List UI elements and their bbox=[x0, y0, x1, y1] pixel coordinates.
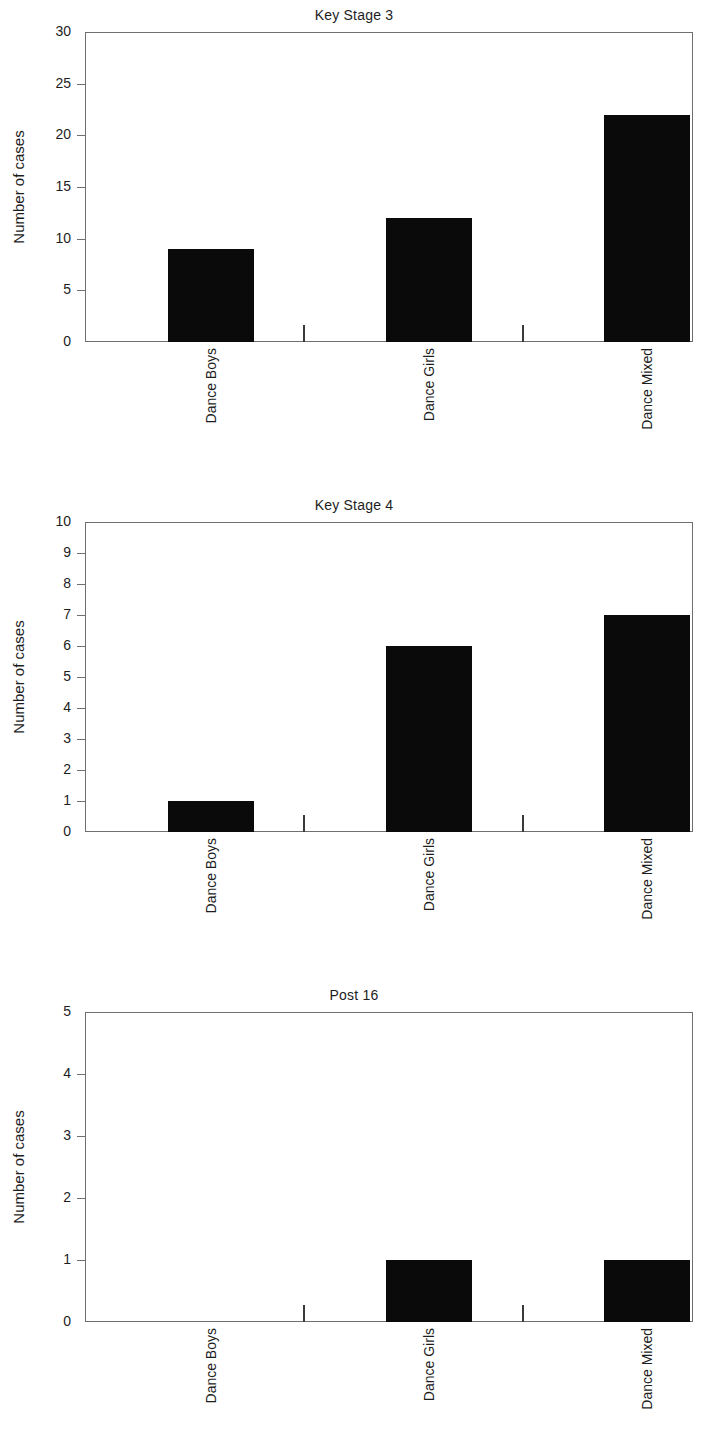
bar bbox=[604, 615, 690, 832]
y-axis-tick: 5 bbox=[0, 677, 85, 678]
y-axis-tick: 0 bbox=[0, 832, 85, 833]
bar bbox=[604, 1260, 690, 1322]
chart-title: Key Stage 4 bbox=[0, 497, 708, 513]
y-axis-tick: 1 bbox=[0, 801, 85, 802]
y-axis-tick: 0 bbox=[0, 1322, 85, 1323]
y-axis-tick-label: 8 bbox=[63, 575, 71, 592]
y-axis-tick-mark bbox=[77, 1198, 85, 1199]
y-axis-tick-label: 5 bbox=[63, 1003, 71, 1020]
y-axis-tick-label: 5 bbox=[63, 668, 71, 685]
y-axis-tick-label: 0 bbox=[63, 823, 71, 840]
y-axis-tick: 7 bbox=[0, 615, 85, 616]
x-axis-separator-tick bbox=[303, 325, 305, 342]
chart-panel: Post 16Number of cases012345Dance BoysDa… bbox=[0, 980, 708, 1451]
y-axis-tick-mark bbox=[77, 187, 85, 188]
bars-layer bbox=[85, 1012, 693, 1322]
y-axis-tick-mark bbox=[77, 584, 85, 585]
y-axis-tick-label: 4 bbox=[63, 699, 71, 716]
y-axis-tick: 2 bbox=[0, 770, 85, 771]
y-axis-tick: 9 bbox=[0, 553, 85, 554]
y-axis-tick: 8 bbox=[0, 584, 85, 585]
y-axis-tick-label: 0 bbox=[63, 1313, 71, 1330]
y-axis-tick: 15 bbox=[0, 187, 85, 188]
y-axis-tick-label: 30 bbox=[55, 23, 71, 40]
y-axis-tick-label: 1 bbox=[63, 1251, 71, 1268]
y-axis-tick-mark bbox=[77, 1260, 85, 1261]
y-axis-tick-mark bbox=[77, 1074, 85, 1075]
y-axis-tick-label: 15 bbox=[55, 178, 71, 195]
y-axis-tick: 20 bbox=[0, 135, 85, 136]
y-axis-tick-label: 10 bbox=[55, 230, 71, 247]
y-axis-tick-label: 2 bbox=[63, 1189, 71, 1206]
y-axis-tick-label: 4 bbox=[63, 1065, 71, 1082]
y-axis-tick: 0 bbox=[0, 342, 85, 343]
bar bbox=[386, 646, 472, 832]
y-axis-tick-label: 10 bbox=[55, 513, 71, 530]
y-axis-tick-label: 3 bbox=[63, 1127, 71, 1144]
chart-title: Key Stage 3 bbox=[0, 7, 708, 23]
y-axis-tick-label: 0 bbox=[63, 333, 71, 350]
y-axis-tick-label: 6 bbox=[63, 637, 71, 654]
y-axis-tick-mark bbox=[77, 677, 85, 678]
y-axis-tick: 2 bbox=[0, 1198, 85, 1199]
y-axis-tick-label: 7 bbox=[63, 606, 71, 623]
y-axis-tick-mark bbox=[77, 708, 85, 709]
x-axis-category-label: Dance Mixed bbox=[638, 838, 656, 958]
x-axis-category-label: Dance Girls bbox=[420, 1328, 438, 1448]
y-axis-tick-mark bbox=[77, 739, 85, 740]
y-axis-tick-mark bbox=[77, 239, 85, 240]
y-axis-tick-mark bbox=[77, 135, 85, 136]
y-axis-tick-label: 5 bbox=[63, 281, 71, 298]
y-axis-tick: 4 bbox=[0, 708, 85, 709]
y-axis-tick: 1 bbox=[0, 1260, 85, 1261]
y-axis-tick: 5 bbox=[0, 1012, 85, 1013]
y-axis-tick-mark bbox=[77, 290, 85, 291]
x-axis-separator-tick bbox=[522, 325, 524, 342]
y-axis-tick: 10 bbox=[0, 239, 85, 240]
x-axis-separator-tick bbox=[303, 815, 305, 832]
bar bbox=[604, 115, 690, 342]
y-axis-tick-label: 25 bbox=[55, 75, 71, 92]
chart-panel: Key Stage 4Number of cases012345678910Da… bbox=[0, 490, 708, 980]
x-axis-separator-tick bbox=[303, 1305, 305, 1322]
y-axis-tick-label: 3 bbox=[63, 730, 71, 747]
x-axis-separator-tick bbox=[522, 815, 524, 832]
y-axis-tick: 3 bbox=[0, 1136, 85, 1137]
y-axis-tick-mark bbox=[77, 553, 85, 554]
bar bbox=[168, 801, 254, 832]
y-axis-tick-label: 2 bbox=[63, 761, 71, 778]
bars-layer bbox=[85, 522, 693, 832]
y-axis-tick-label: 20 bbox=[55, 126, 71, 143]
bars-layer bbox=[85, 32, 693, 342]
chart-panel: Key Stage 3Number of cases051015202530Da… bbox=[0, 0, 708, 490]
x-axis-category-label: Dance Boys bbox=[202, 348, 220, 468]
x-axis-category-label: Dance Boys bbox=[202, 838, 220, 958]
x-axis-category-label: Dance Mixed bbox=[638, 1328, 656, 1448]
x-axis-separator-tick bbox=[522, 1305, 524, 1322]
y-axis-tick-mark bbox=[77, 615, 85, 616]
y-axis-tick: 25 bbox=[0, 84, 85, 85]
x-axis-category-label: Dance Girls bbox=[420, 348, 438, 468]
chart-title: Post 16 bbox=[0, 987, 708, 1003]
x-axis-category-label: Dance Girls bbox=[420, 838, 438, 958]
y-axis-label: Number of cases bbox=[6, 1012, 32, 1322]
x-axis-category-label: Dance Mixed bbox=[638, 348, 656, 468]
y-axis-tick: 4 bbox=[0, 1074, 85, 1075]
y-axis-tick-label: 9 bbox=[63, 544, 71, 561]
bar-chart-figure: Key Stage 3Number of cases051015202530Da… bbox=[0, 0, 708, 1451]
y-axis-tick-mark bbox=[77, 1136, 85, 1137]
y-axis-tick: 30 bbox=[0, 32, 85, 33]
bar bbox=[386, 1260, 472, 1322]
y-axis-tick: 3 bbox=[0, 739, 85, 740]
y-axis-tick-mark bbox=[77, 770, 85, 771]
y-axis-tick: 6 bbox=[0, 646, 85, 647]
bar bbox=[386, 218, 472, 342]
y-axis-tick: 10 bbox=[0, 522, 85, 523]
y-axis-tick-label: 1 bbox=[63, 792, 71, 809]
y-axis-tick-mark bbox=[77, 801, 85, 802]
y-axis-tick-mark bbox=[77, 646, 85, 647]
bar bbox=[168, 249, 254, 342]
x-axis-category-label: Dance Boys bbox=[202, 1328, 220, 1448]
y-axis-tick-mark bbox=[77, 84, 85, 85]
y-axis-tick: 5 bbox=[0, 290, 85, 291]
